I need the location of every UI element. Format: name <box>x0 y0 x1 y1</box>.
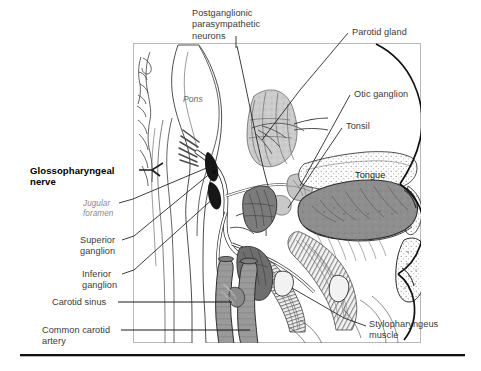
label-stylopharyngeus-muscle: Stylopharyngeus muscle <box>369 319 438 342</box>
label-common-carotid-artery: Common carotid artery <box>42 325 110 348</box>
label-superior-ganglion: Superior ganglion <box>80 235 115 258</box>
label-carotid-sinus: Carotid sinus <box>52 297 106 308</box>
label-tongue: Tongue <box>355 170 385 181</box>
label-jugular-foramen: Jugular foramen <box>83 199 113 218</box>
label-tonsil: Tonsil <box>346 121 370 132</box>
label-inferior-ganglion: Inferior ganglion <box>82 269 117 292</box>
baseline-rule <box>20 354 465 356</box>
label-otic-ganglion: Otic ganglion <box>354 89 408 100</box>
label-glossopharyngeal-nerve: Glossopharyngeal nerve <box>30 165 115 188</box>
label-pons: Pons <box>183 95 203 105</box>
label-postganglionic-parasympathetic-neurons: Postganglionic parasympathetic neurons <box>192 8 260 42</box>
label-parotid-gland: Parotid gland <box>352 27 407 38</box>
